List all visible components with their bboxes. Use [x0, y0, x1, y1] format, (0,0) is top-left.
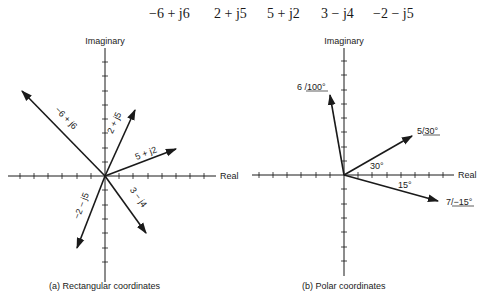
label-7-at-neg15deg: 7/−15°	[446, 197, 473, 207]
panel-polar: Real Imaginary 6 /100° 5/30° 7/−15° 30° …	[252, 36, 477, 291]
imaginary-axis-label: Imaginary	[324, 36, 364, 46]
vector-6-at-100deg	[330, 95, 344, 175]
label-2-j5: 2 + j5	[105, 111, 123, 135]
real-axis-label: Real	[220, 171, 239, 181]
real-axis-label: Real	[458, 170, 477, 180]
phasor-diagrams: Real Imaginary −6 + j6 2 + j5 5 + j2 3 −…	[0, 0, 483, 296]
caption-a: (a) Rectangular coordinates	[49, 281, 161, 291]
label-6-at-100deg: 6 /100°	[297, 82, 326, 92]
label-5-j2: 5 + j2	[134, 145, 158, 162]
caption-b: (b) Polar coordinates	[302, 281, 386, 291]
angle-label-30: 30°	[370, 161, 384, 171]
vector-neg6-j6	[22, 91, 105, 176]
panel-rectangular: Real Imaginary −6 + j6 2 + j5 5 + j2 3 −…	[8, 36, 239, 291]
angle-label-15: 15°	[398, 180, 412, 190]
imaginary-axis-label: Imaginary	[85, 36, 125, 46]
label-neg2-negj5: −2 − j5	[72, 191, 91, 220]
vector-7-at-neg15deg	[344, 175, 438, 201]
label-5-at-30deg: 5/30°	[417, 126, 439, 136]
label-3-negj4: 3 − j4	[128, 185, 149, 209]
